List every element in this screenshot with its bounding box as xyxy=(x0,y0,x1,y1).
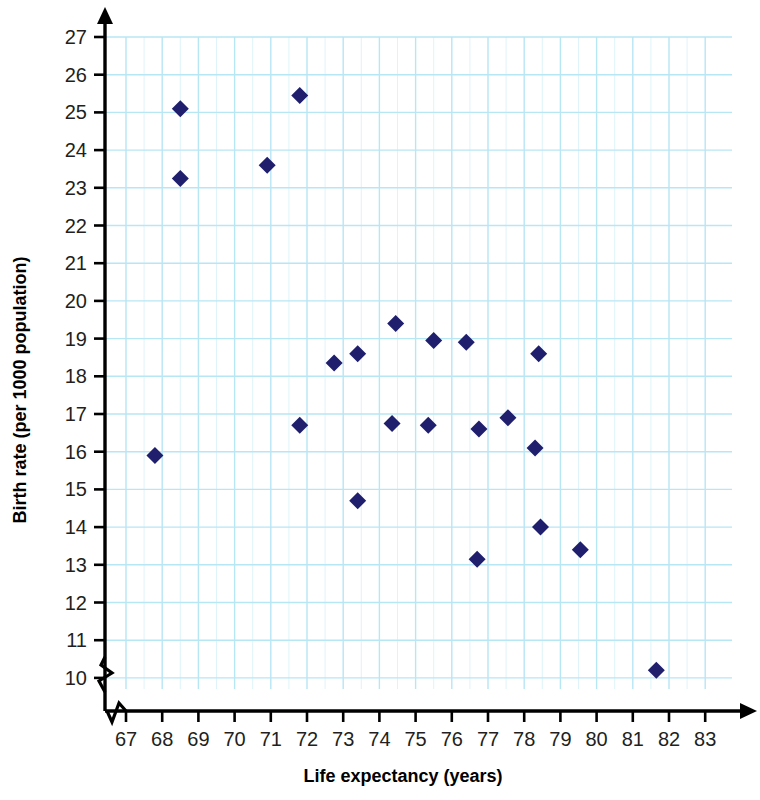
data-point-marker xyxy=(425,332,442,349)
y-tick-label: 23 xyxy=(65,177,87,199)
y-tick-label: 19 xyxy=(65,328,87,350)
y-tick-label: 22 xyxy=(65,215,87,237)
data-point-marker xyxy=(291,417,308,434)
y-tick-label: 26 xyxy=(65,64,87,86)
axis-lines xyxy=(97,7,757,722)
y-tick-label: 21 xyxy=(65,252,87,274)
scatter-chart: 6768697071727374757677787980818283 10111… xyxy=(0,0,760,800)
x-axis-title: Life expectancy (years) xyxy=(303,766,502,786)
x-tick-label: 82 xyxy=(658,728,680,750)
y-axis-title: Birth rate (per 1000 population) xyxy=(10,256,30,523)
data-point-marker xyxy=(172,100,189,117)
x-tick-label: 69 xyxy=(187,728,209,750)
data-point-marker xyxy=(648,662,665,679)
x-tick-label: 78 xyxy=(513,728,535,750)
data-point-marker xyxy=(326,355,343,372)
y-tick-label: 15 xyxy=(65,478,87,500)
data-point-marker xyxy=(420,417,437,434)
data-point-marker xyxy=(349,345,366,362)
y-axis-tick-labels: 101112131415161718192021222324252627 xyxy=(65,26,87,689)
y-tick-label: 12 xyxy=(65,592,87,614)
y-tick-label: 11 xyxy=(66,629,87,651)
x-tick-label: 68 xyxy=(151,728,173,750)
data-point-marker xyxy=(572,541,589,558)
data-point-marker xyxy=(384,415,401,432)
x-tick-label: 72 xyxy=(296,728,318,750)
y-tick-label: 13 xyxy=(65,554,87,576)
y-tick-label: 17 xyxy=(65,403,87,425)
data-points xyxy=(146,87,664,679)
y-tick-label: 14 xyxy=(65,516,87,538)
data-point-marker xyxy=(470,421,487,438)
x-tick-label: 76 xyxy=(441,728,463,750)
data-point-marker xyxy=(172,170,189,187)
y-tick-label: 27 xyxy=(65,26,87,48)
x-tick-label: 74 xyxy=(368,728,390,750)
x-tick-label: 79 xyxy=(549,728,571,750)
x-tick-label: 75 xyxy=(404,728,426,750)
data-point-marker xyxy=(527,439,544,456)
data-point-marker xyxy=(146,447,163,464)
x-tick-label: 67 xyxy=(115,728,137,750)
data-point-marker xyxy=(499,409,516,426)
y-tick-label: 16 xyxy=(65,441,87,463)
x-axis-tick-labels: 6768697071727374757677787980818283 xyxy=(115,728,716,750)
data-point-marker xyxy=(530,345,547,362)
y-tick-label: 24 xyxy=(65,139,87,161)
x-tick-label: 71 xyxy=(260,728,282,750)
data-point-marker xyxy=(458,334,475,351)
data-point-marker xyxy=(532,519,549,536)
data-point-marker xyxy=(259,157,276,174)
y-tick-label: 18 xyxy=(65,365,87,387)
y-tick-label: 20 xyxy=(65,290,87,312)
x-tick-label: 77 xyxy=(477,728,499,750)
gridlines xyxy=(105,37,732,689)
chart-canvas: 6768697071727374757677787980818283 10111… xyxy=(0,0,760,800)
x-tick-label: 80 xyxy=(585,728,607,750)
y-tick-label: 25 xyxy=(65,101,87,123)
x-tick-label: 70 xyxy=(223,728,245,750)
data-point-marker xyxy=(291,87,308,104)
y-tick-label: 10 xyxy=(65,667,87,689)
x-tick-label: 73 xyxy=(332,728,354,750)
data-point-marker xyxy=(349,492,366,509)
data-point-marker xyxy=(387,315,404,332)
x-tick-label: 81 xyxy=(622,728,644,750)
x-tick-label: 83 xyxy=(694,728,716,750)
